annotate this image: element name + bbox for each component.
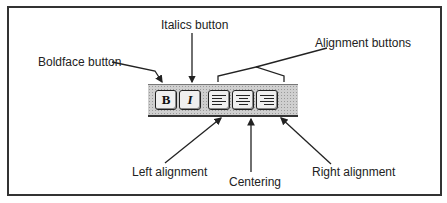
centering-label: Centering	[229, 175, 281, 189]
bold-button[interactable]: B	[155, 90, 177, 110]
align-center-button[interactable]	[232, 90, 254, 110]
align-right-icon	[260, 95, 274, 106]
align-left-icon	[212, 95, 226, 106]
align-left-button[interactable]	[208, 90, 230, 110]
italic-button[interactable]: I	[179, 90, 201, 110]
formatting-toolbar: B I	[148, 84, 298, 117]
bold-icon: B	[162, 92, 171, 108]
left-alignment-label: Left alignment	[132, 165, 207, 179]
right-alignment-label: Right alignment	[312, 165, 395, 179]
boldface-button-label: Boldface button	[38, 55, 121, 69]
align-center-icon	[236, 95, 250, 106]
italics-button-label: Italics button	[161, 18, 228, 32]
alignment-buttons-label: Alignment buttons	[315, 36, 411, 50]
italic-icon: I	[187, 92, 192, 108]
align-right-button[interactable]	[256, 90, 278, 110]
